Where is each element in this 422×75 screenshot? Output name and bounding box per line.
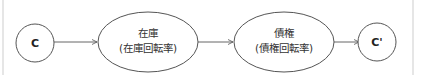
node-receivables-label: 債権 — [274, 27, 295, 39]
node-receivables-sublabel: (債権回転率) — [255, 42, 313, 54]
node-c-end-label: C' — [371, 36, 382, 49]
node-c-start-label: C — [31, 37, 39, 50]
node-inventory-label: 在庫 — [138, 27, 159, 39]
flow-diagram: C 在庫 (在庫回転率) 債権 (債権回転率) C' — [0, 0, 422, 75]
diagram-frame: C 在庫 (在庫回転率) 債権 (債権回転率) C' — [0, 0, 422, 75]
node-c-start: C — [16, 24, 54, 62]
node-inventory-sublabel: (在庫回転率) — [119, 42, 177, 54]
node-inventory: 在庫 (在庫回転率) — [98, 12, 198, 72]
node-receivables: 債権 (債権回転率) — [234, 12, 334, 72]
node-c-end: C' — [358, 23, 396, 61]
